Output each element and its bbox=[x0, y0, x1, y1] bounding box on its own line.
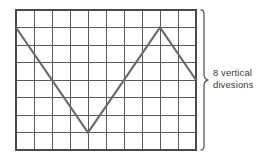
figure-root: 8 vertical divesions bbox=[0, 0, 270, 167]
vertical-divisions-annotation: 8 vertical divesions bbox=[213, 67, 269, 90]
annotation-line-2: divesions bbox=[213, 79, 269, 91]
annotation-line-1: 8 vertical bbox=[213, 67, 269, 79]
vertical-span-bracket-icon bbox=[201, 10, 208, 150]
